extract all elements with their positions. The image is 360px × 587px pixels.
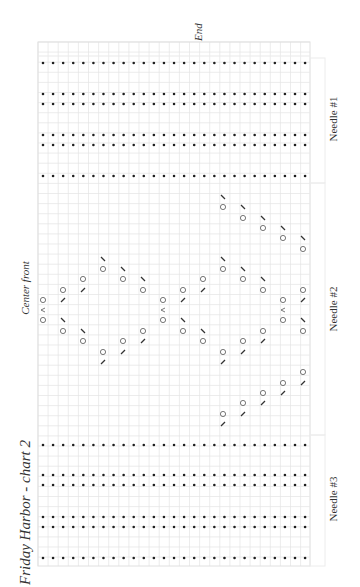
needle-2-label: Needle #2 [327, 279, 339, 339]
chart-title: Friday Harbor - chart 2 [17, 438, 34, 587]
needle-section-boxes [310, 58, 325, 566]
lace-symbols [40, 195, 305, 426]
purl-stitch-dots [42, 62, 307, 560]
end-label: End [192, 20, 204, 44]
chart-canvas [0, 0, 360, 587]
needle-3-label: Needle #3 [327, 469, 339, 529]
knitting-chart: Friday Harbor - chart 2 Center front End… [0, 0, 360, 587]
needle-1-label: Needle #1 [327, 89, 339, 149]
center-front-label: Center front [19, 248, 31, 328]
grid-lines [38, 42, 310, 566]
